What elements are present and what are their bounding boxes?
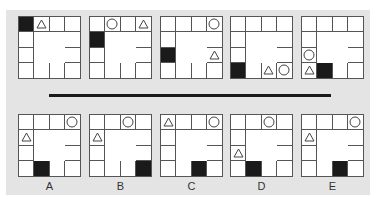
option-e[interactable]	[301, 114, 364, 177]
triangle-icon	[304, 65, 315, 75]
grid-cell	[262, 17, 277, 32]
grid-cell	[136, 48, 151, 63]
grid-centre	[176, 32, 207, 63]
grid-cell	[136, 17, 151, 32]
circle-icon	[263, 116, 275, 128]
grid-cell	[50, 115, 65, 130]
option-b[interactable]	[89, 114, 152, 177]
grid-cell	[348, 161, 363, 176]
grid-cell	[105, 63, 120, 78]
sequence-grid-3	[160, 16, 223, 79]
grid-cell	[90, 146, 105, 161]
grid-cell	[161, 63, 176, 78]
grid-centre	[176, 130, 207, 161]
grid-cell	[302, 115, 317, 130]
option-label-b: B	[89, 180, 152, 192]
option-label-a: A	[18, 180, 81, 192]
option-d[interactable]	[230, 114, 293, 177]
grid-cell	[90, 115, 105, 130]
grid-cell	[333, 63, 348, 78]
grid-cell	[317, 17, 332, 32]
grid-cell	[246, 115, 261, 130]
option-c[interactable]	[160, 114, 223, 177]
grid-cell	[65, 17, 80, 32]
grid-cell	[161, 32, 176, 47]
grid-cell	[161, 17, 176, 32]
black-square	[19, 17, 34, 32]
grid-cell	[302, 63, 317, 78]
grid-cell	[207, 146, 222, 161]
grid-centre	[246, 32, 277, 63]
circle-icon	[208, 116, 220, 128]
grid-cell	[65, 161, 80, 176]
black-square	[333, 161, 348, 176]
grid-cell	[136, 130, 151, 145]
sequence-grid-2	[89, 16, 152, 79]
option-label-c: C	[160, 180, 223, 192]
grid-cell	[231, 161, 246, 176]
grid-cell	[90, 161, 105, 176]
grid-cell	[231, 115, 246, 130]
grid-cell	[161, 130, 176, 145]
divider-line	[49, 94, 331, 97]
black-square	[90, 32, 105, 47]
grid-cell	[333, 115, 348, 130]
grid-cell	[277, 48, 292, 63]
grid-cell	[121, 63, 136, 78]
grid-cell	[207, 48, 222, 63]
grid-cell	[176, 115, 191, 130]
grid-cell	[19, 63, 34, 78]
black-square	[192, 161, 207, 176]
grid-cell	[50, 161, 65, 176]
grid-cell	[302, 48, 317, 63]
black-square	[161, 48, 176, 63]
sequence-grid-4	[230, 16, 293, 79]
grid-cell	[121, 115, 136, 130]
circle-icon	[303, 49, 315, 61]
triangle-icon	[138, 19, 149, 29]
grid-cell	[161, 146, 176, 161]
grid-cell	[105, 115, 120, 130]
grid-centre	[34, 130, 65, 161]
grid-cell	[231, 146, 246, 161]
grid-cell	[90, 130, 105, 145]
circle-icon	[349, 116, 361, 128]
grid-cell	[65, 63, 80, 78]
grid-cell	[19, 146, 34, 161]
grid-cell	[302, 146, 317, 161]
grid-cell	[136, 63, 151, 78]
triangle-icon	[92, 132, 103, 142]
grid-cell	[136, 146, 151, 161]
grid-centre	[105, 32, 136, 63]
grid-cell	[348, 130, 363, 145]
grid-cell	[246, 63, 261, 78]
grid-cell	[121, 17, 136, 32]
black-square	[246, 161, 261, 176]
circle-icon	[208, 18, 220, 30]
grid-cell	[277, 17, 292, 32]
grid-cell	[34, 63, 49, 78]
grid-cell	[348, 146, 363, 161]
grid-cell	[348, 63, 363, 78]
grid-cell	[65, 115, 80, 130]
grid-cell	[231, 130, 246, 145]
grid-cell	[90, 17, 105, 32]
grid-cell	[231, 48, 246, 63]
grid-centre	[34, 32, 65, 63]
grid-cell	[90, 48, 105, 63]
grid-cell	[207, 63, 222, 78]
grid-cell	[65, 48, 80, 63]
triangle-icon	[209, 50, 220, 60]
triangle-icon	[304, 132, 315, 142]
grid-cell	[176, 161, 191, 176]
grid-cell	[121, 161, 136, 176]
grid-cell	[192, 63, 207, 78]
option-a[interactable]	[18, 114, 81, 177]
black-square	[34, 161, 49, 176]
grid-cell	[231, 32, 246, 47]
grid-cell	[277, 115, 292, 130]
grid-cell	[207, 17, 222, 32]
grid-cell	[50, 17, 65, 32]
grid-cell	[176, 63, 191, 78]
circle-icon	[106, 18, 118, 30]
